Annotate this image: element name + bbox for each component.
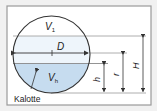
label-h: h [92,77,102,82]
sphere-volume-diagram: V1 D Vh h r H Kalotte [0,0,157,111]
label-H: H [131,62,141,69]
label-d: D [57,41,64,52]
label-kalotte: Kalotte [14,94,41,104]
